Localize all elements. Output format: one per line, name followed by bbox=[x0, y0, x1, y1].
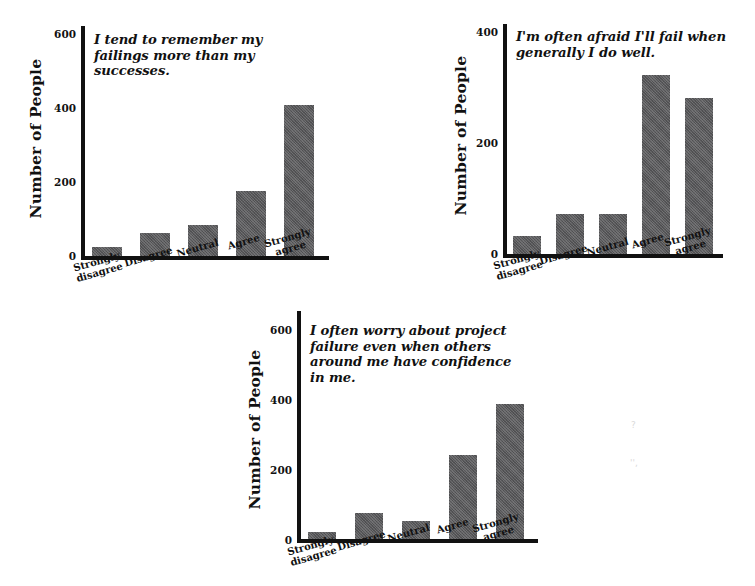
y-tick-label-0-1: 200 bbox=[34, 176, 76, 188]
question-text-2: I often worry about project failure even… bbox=[310, 323, 528, 385]
chart-panel-1: Number of People 400 200 0 I'm often afr… bbox=[440, 6, 740, 302]
scan-artifact-1: ? bbox=[631, 420, 636, 430]
y-tick-label-0-3: 600 bbox=[34, 28, 76, 40]
y-axis-label-2: Number of People bbox=[245, 370, 264, 510]
y-tick-label-2-3: 600 bbox=[250, 324, 292, 336]
question-text-1: I'm often afraid I'll fail when generall… bbox=[516, 29, 731, 60]
y-tick-label-0-0: 0 bbox=[34, 250, 76, 262]
y-tick-label-2-0: 0 bbox=[250, 534, 292, 546]
y-tick-label-2-1: 200 bbox=[250, 464, 292, 476]
y-tick-label-1-1: 200 bbox=[456, 137, 498, 149]
plot-area-1 bbox=[507, 32, 723, 254]
y-tick-label-1-2: 400 bbox=[456, 26, 498, 38]
chart-panel-0: Number of People 600 400 200 0 I tend to… bbox=[18, 6, 348, 302]
scan-artifact-2: '', bbox=[630, 458, 638, 468]
y-tick-label-2-2: 400 bbox=[250, 394, 292, 406]
y-tick-label-1-0: 0 bbox=[456, 248, 498, 260]
chart-panel-2: Number of People 600 400 200 0 I often w… bbox=[232, 305, 562, 583]
y-axis-label-0: Number of People bbox=[26, 79, 45, 219]
bar-1-3 bbox=[642, 75, 670, 254]
y-tick-label-0-2: 400 bbox=[34, 102, 76, 114]
plot-wrap-1: Number of People 400 200 0 I'm often afr… bbox=[440, 6, 740, 302]
question-text-0: I tend to remember my failings more than… bbox=[94, 32, 294, 79]
plot-wrap-2: Number of People 600 400 200 0 I often w… bbox=[232, 305, 562, 583]
plot-wrap-0: Number of People 600 400 200 0 I tend to… bbox=[18, 6, 348, 302]
